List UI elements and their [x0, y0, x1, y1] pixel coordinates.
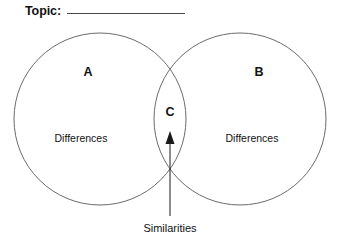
venn-diagram-graphic [0, 0, 340, 248]
circle-a[interactable] [14, 33, 186, 205]
circle-b-letter: B [254, 65, 263, 79]
venn-diagram-worksheet: Topic: A B C Differences Differences Sim… [0, 0, 340, 248]
intersection-letter: C [165, 105, 174, 119]
circle-a-region-label: Differences [55, 132, 108, 144]
circle-b-region-label: Differences [226, 132, 279, 144]
intersection-caption: Similarities [143, 222, 196, 234]
circle-a-letter: A [83, 65, 92, 79]
